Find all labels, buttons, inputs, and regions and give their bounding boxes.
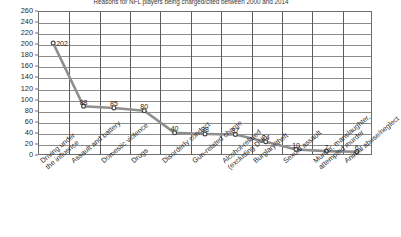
gridline-horizontal (39, 101, 371, 102)
gridline-horizontal (39, 78, 371, 79)
gridline-horizontal (39, 56, 371, 57)
x-axis: Driving underthe influenceAssault and ba… (0, 155, 382, 237)
y-tick-label: 100 (21, 96, 33, 104)
y-tick-label: 40 (25, 129, 33, 137)
gridline-horizontal (39, 45, 371, 46)
chart-title: Reasons for NFL players being charged/ci… (0, 0, 382, 6)
gridline-horizontal (39, 112, 371, 113)
gridline-horizontal (39, 67, 371, 68)
gridline-horizontal (39, 23, 371, 24)
y-tick-label: 60 (25, 118, 33, 126)
y-tick-label: 240 (21, 18, 33, 26)
gridline-horizontal (39, 34, 371, 35)
y-tick-label: 160 (21, 62, 33, 70)
y-tick-label: 200 (21, 40, 33, 48)
y-tick-label: 80 (25, 107, 33, 115)
gridline-horizontal (39, 90, 371, 91)
y-tick-label: 180 (21, 51, 33, 59)
y-tick-label: 260 (21, 7, 33, 15)
y-tick-label: 140 (21, 73, 33, 81)
gridline-vertical (160, 12, 161, 154)
y-tick-label: 220 (21, 29, 33, 37)
y-tick-label: 120 (21, 85, 33, 93)
y-tick-label: 20 (25, 140, 33, 148)
